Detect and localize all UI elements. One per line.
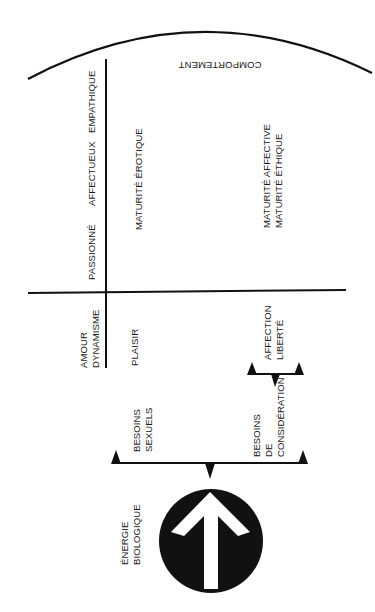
besoins-sexuels-line1: BESOINS xyxy=(131,409,142,452)
liberte-label: LIBERTÉ xyxy=(274,320,285,360)
maturite-erotique-label: MATURITÉ ÉROTIQUE xyxy=(133,128,144,230)
triangle-up-icon xyxy=(111,450,121,464)
column-header-empathique: EMPATHIQUE xyxy=(86,71,97,133)
triangle-up-icon xyxy=(247,362,257,375)
triangle-up-icon xyxy=(294,362,304,375)
biologique-label: BIOLOGIQUE xyxy=(131,504,142,565)
row-header-amour: AMOUR xyxy=(78,332,89,368)
maturite-affective-label: MATURITÉ AFFECTIVE xyxy=(261,124,272,228)
horizontal-divider xyxy=(28,290,346,293)
triangle-up-icon xyxy=(298,450,308,464)
energie-label: ÉNERGIE xyxy=(119,522,130,565)
column-header-affectueux: AFFECTUEUX xyxy=(86,141,97,206)
diagram-canvas: COMPORTEMENT PASSIONNÉ AFFECTUEUX EMPATH… xyxy=(0,0,375,612)
row-header-dynamisme: DYNAMISME xyxy=(90,310,101,368)
besoins-consideration-line2: DE xyxy=(263,444,274,457)
besoins-sexuels-line2: SEXUELS xyxy=(143,407,154,452)
energie-biologique-symbol xyxy=(159,489,263,593)
plaisir-label: PLAISIR xyxy=(129,329,140,366)
besoins-consideration-line3: CONSIDÉRATION xyxy=(275,377,286,457)
triangle-down-icon xyxy=(205,463,215,479)
affection-label: AFFECTION xyxy=(262,305,273,360)
besoins-consideration-line1: BESOINS xyxy=(251,414,262,457)
maturite-ethique-label: MATURITÉ ÉTHIQUE xyxy=(273,134,284,228)
comportement-label: COMPORTEMENT xyxy=(178,60,261,71)
column-header-passionne: PASSIONNÉ xyxy=(86,224,97,280)
